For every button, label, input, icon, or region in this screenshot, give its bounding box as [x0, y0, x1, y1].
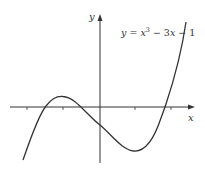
x-axis-label: x: [188, 112, 194, 123]
y-axis-arrow-icon: [98, 14, 103, 21]
eq-equals: =: [126, 27, 140, 38]
eq-minus-1: − 1: [175, 27, 195, 38]
x-axis-arrow-icon: [188, 105, 195, 110]
cubic-curve: [23, 22, 186, 160]
y-axis-label: y: [88, 11, 95, 22]
equation-label: y = x3 − 3x − 1: [120, 26, 195, 38]
eq-minus-3: − 3: [150, 27, 170, 38]
cubic-graph: y x y = x3 − 3x − 1: [0, 0, 205, 175]
